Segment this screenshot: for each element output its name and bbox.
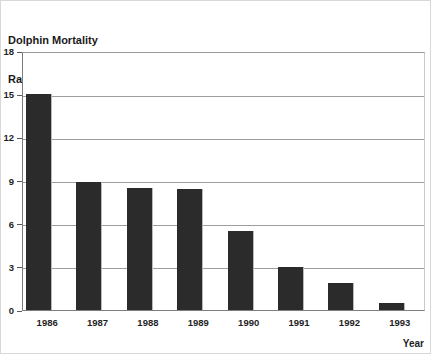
bar (26, 94, 51, 310)
y-axis-tick-label: 15 (0, 90, 14, 100)
bar (177, 189, 202, 310)
plot-area (22, 52, 425, 311)
y-axis-tick (17, 138, 22, 139)
x-axis-tick-label: 1992 (324, 318, 374, 328)
x-axis-tick-label: 1986 (22, 318, 72, 328)
bar (228, 231, 253, 310)
y-axis-tick (17, 224, 22, 225)
y-axis-tick (17, 52, 22, 53)
x-axis-tick-label: 1993 (375, 318, 425, 328)
bar (127, 188, 152, 310)
y-axis-tick-label: 0 (0, 306, 14, 316)
x-axis-tick-label: 1987 (73, 318, 123, 328)
gridline (23, 139, 424, 140)
bar (278, 267, 303, 310)
y-axis-tick (17, 311, 22, 312)
gridline (23, 96, 424, 97)
x-axis-tick-label: 1989 (173, 318, 223, 328)
bar (76, 182, 101, 310)
x-axis-tick-label: 1990 (224, 318, 274, 328)
bar (328, 283, 353, 310)
y-axis-tick (17, 267, 22, 268)
y-axis-tick-label: 3 (0, 263, 14, 273)
x-axis-tick-label: 1991 (274, 318, 324, 328)
y-axis-tick-label: 9 (0, 177, 14, 187)
y-axis-tick-label: 12 (0, 133, 14, 143)
bar (379, 303, 404, 310)
x-axis-title: Year (403, 338, 424, 349)
y-axis-tick (17, 95, 22, 96)
chart-title-line-1: Dolphin Mortality (8, 34, 98, 47)
y-axis-tick-label: 6 (0, 220, 14, 230)
y-axis-tick-label: 18 (0, 47, 14, 57)
y-axis-tick (17, 181, 22, 182)
x-axis-tick-label: 1988 (123, 318, 173, 328)
